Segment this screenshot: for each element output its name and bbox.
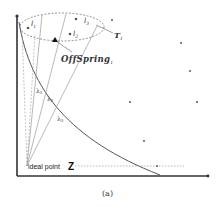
pareto-front-diagram: l1 l2 l3 T1 OffSpring1 λ1 λ2 λ3 ideal po… [0,0,221,207]
scatter-points [111,19,198,167]
scatter-point [156,165,158,167]
weight-ray-lambda3 [27,26,97,166]
t1-pointer-line [96,25,113,33]
point-l2 [69,33,72,36]
label-offspring: OffSpring1 [61,54,114,65]
label-lambda2: λ2 [47,95,54,103]
x-axis-arrow-icon [207,175,210,178]
scatter-point [129,101,131,103]
pareto-front-curve [19,22,160,175]
scatter-point [189,70,191,72]
label-t1: T1 [114,30,123,41]
label-lambda3: λ3 [57,115,64,123]
scatter-point [180,42,182,44]
label-lambda1: λ1 [36,87,42,95]
y-axis-arrow-icon [15,14,18,17]
weight-ray-lambda2 [27,14,66,166]
scatter-point [111,19,113,21]
scatter-point [196,101,198,103]
point-l3 [75,18,78,21]
weight-ray-1-dashed [22,30,27,166]
scatter-point [143,140,145,142]
label-z: Z [68,161,74,172]
offspring-pointer-line [56,41,72,52]
label-l2: l2 [73,30,78,39]
label-l1: l1 [31,20,36,29]
offspring-triangle-icon [52,37,58,42]
label-l3: l3 [84,17,89,26]
point-l1 [27,27,30,30]
figure-caption: (a) [102,189,113,198]
label-ideal-point: ideal point [28,163,60,171]
